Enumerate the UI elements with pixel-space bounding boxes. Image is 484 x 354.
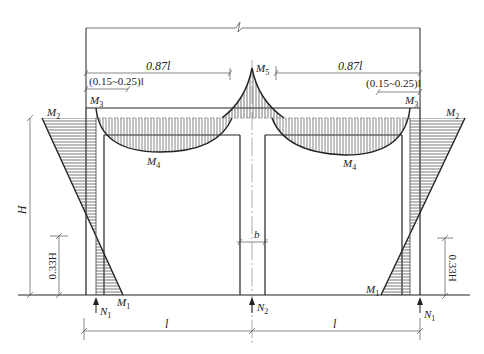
- label-m5: M5: [255, 62, 269, 77]
- label-inflection-right: (0.15~0.25)l: [366, 77, 421, 90]
- reaction-n2: [249, 297, 255, 313]
- dim-column-width-b: [237, 239, 268, 245]
- label-033H-left: 0.33H: [46, 252, 58, 279]
- reaction-n1-left: [93, 297, 99, 313]
- label-m3-right: M3: [404, 94, 418, 109]
- dim-inflection-right: [376, 89, 422, 95]
- beam-moment-right: [272, 108, 410, 155]
- label-b: b: [254, 228, 260, 240]
- beam-moment-left: [96, 108, 232, 152]
- label-span-left: l: [165, 317, 169, 331]
- label-span-right: l: [333, 317, 337, 331]
- label-m1-right: M1: [365, 283, 379, 298]
- label-087l-left: 0.87l: [146, 59, 171, 73]
- label-n2: N2: [256, 301, 268, 316]
- frame-moment-diagram: 0.87l (0.15~0.25)l 0.87l (0.15~0.25)l M3…: [0, 0, 484, 354]
- label-m3-left: M3: [89, 94, 103, 109]
- label-n1-right: N1: [423, 308, 435, 323]
- label-m4-left: M4: [146, 155, 160, 170]
- label-087l-right: 0.87l: [338, 59, 363, 73]
- label-033H-right: 0.33H: [447, 254, 459, 281]
- reaction-n1-right: [417, 297, 423, 313]
- label-H: H: [15, 204, 29, 215]
- label-m1-left: M1: [116, 296, 130, 311]
- label-m4-right: M4: [342, 157, 356, 172]
- label-n1-left: N1: [99, 305, 111, 320]
- label-inflection-left: (0.15~0.25)l: [89, 75, 144, 88]
